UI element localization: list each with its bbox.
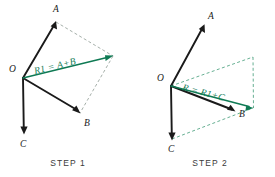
vector-a-label: A [207, 11, 214, 21]
step-1-caption: STEP 1 [50, 158, 86, 168]
origin-label-step-2: O [157, 73, 164, 83]
vector-b-label: B [239, 109, 245, 119]
vector-c-shaft [171, 86, 172, 136]
step-2-caption: STEP 2 [192, 158, 228, 168]
vector-c-shaft [23, 78, 24, 130]
vector-b-label: B [84, 118, 90, 128]
origin-label-step-1: O [9, 64, 16, 74]
vector-c-label: C [20, 139, 27, 149]
vector-addition-diagram: A B C R1 = A+B O STEP 1 [0, 0, 275, 177]
vector-a-label: A [52, 4, 59, 14]
vector-c-label: C [168, 144, 175, 154]
